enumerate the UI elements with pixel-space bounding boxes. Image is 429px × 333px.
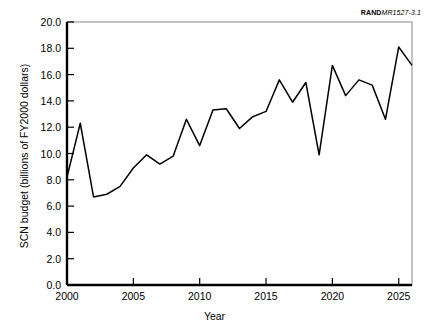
y-tick-label: 10.0 xyxy=(41,148,62,160)
y-tick-label: 4.0 xyxy=(46,226,61,238)
x-tick-label: 2005 xyxy=(122,290,146,302)
y-tick-label: 20.0 xyxy=(41,16,62,28)
y-tick-label: 16.0 xyxy=(41,69,62,81)
x-tick-label: 2015 xyxy=(254,290,278,302)
y-tick-label: 18.0 xyxy=(41,42,62,54)
x-tick-label: 2000 xyxy=(55,290,79,302)
y-tick-label: 6.0 xyxy=(46,200,61,212)
x-axis-ticks: 200020052010201520202025 xyxy=(55,278,410,302)
line-chart: 0.02.04.06.08.010.012.014.016.018.020.0 … xyxy=(0,0,429,333)
y-tick-label: 8.0 xyxy=(46,174,61,186)
plot-frame xyxy=(67,22,412,285)
y-tick-label: 12.0 xyxy=(41,121,62,133)
y-tick-label: 14.0 xyxy=(41,95,62,107)
y-axis-label: SCN budget (billions of FY2000 dollars) xyxy=(18,36,30,276)
y-tick-label: 2.0 xyxy=(46,253,61,265)
x-tick-label: 2020 xyxy=(321,290,345,302)
figure-container: RANDMR1527-3.1 0.02.04.06.08.010.012.014… xyxy=(0,0,429,333)
x-tick-label: 2010 xyxy=(188,290,212,302)
y-axis-ticks: 0.02.04.06.08.010.012.014.016.018.020.0 xyxy=(41,16,74,291)
data-series xyxy=(67,47,412,197)
x-tick-label: 2025 xyxy=(387,290,411,302)
x-axis-label: Year xyxy=(0,310,429,322)
